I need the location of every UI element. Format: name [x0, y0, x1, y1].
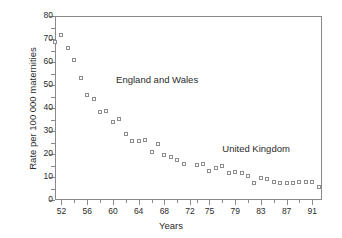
data-point-marker: [143, 138, 147, 142]
data-point-marker: [304, 180, 308, 184]
data-point-marker: [220, 164, 224, 168]
data-point-marker: [98, 110, 102, 114]
x-axis-tick: [164, 200, 165, 205]
x-axis-minor-tick: [197, 200, 198, 203]
x-axis-minor-tick: [152, 200, 153, 203]
x-axis-tick: [235, 200, 236, 205]
annotation-united-kingdom: United Kingdom: [222, 143, 290, 154]
y-axis-tick-label: 0: [48, 195, 53, 204]
y-axis-tick-label: 30: [44, 126, 53, 135]
x-axis-tick-label: 64: [129, 207, 149, 216]
plot-area: [55, 16, 322, 200]
x-axis-minor-tick: [222, 200, 223, 203]
x-axis-tick: [87, 200, 88, 205]
maternal-mortality-scatter-chart: Rate per 100 000 maternities 01020304050…: [0, 0, 342, 238]
y-axis-tick-label: 80: [44, 11, 53, 20]
x-axis-minor-tick: [299, 200, 300, 203]
data-point-marker: [297, 180, 301, 184]
data-point-marker: [150, 150, 154, 154]
data-point-marker: [278, 181, 282, 185]
x-axis-tick: [312, 200, 313, 205]
data-point-marker: [195, 163, 199, 167]
x-axis-minor-tick: [248, 200, 249, 203]
data-point-marker: [53, 40, 57, 44]
x-axis-tick-label: 83: [251, 207, 271, 216]
data-point-marker: [79, 76, 83, 80]
y-axis-title: Rate per 100 000 maternities: [27, 14, 38, 204]
x-axis-tick-label: 52: [51, 207, 71, 216]
x-axis-tick: [190, 200, 191, 205]
y-axis-minor-tick: [51, 120, 55, 121]
data-point-marker: [214, 166, 218, 170]
data-point-marker: [169, 155, 173, 159]
y-axis-tick-label: 50: [44, 80, 53, 89]
y-axis-tick-label: 20: [44, 149, 53, 158]
data-point-marker: [207, 169, 211, 173]
data-point-marker: [317, 185, 321, 189]
y-axis-minor-tick: [51, 51, 55, 52]
x-axis-tick-label: 79: [225, 207, 245, 216]
x-axis-minor-tick: [126, 200, 127, 203]
x-axis-tick: [61, 200, 62, 205]
data-point-marker: [246, 174, 250, 178]
annotation-england-and-wales: England and Wales: [116, 74, 198, 85]
y-axis-minor-tick: [51, 97, 55, 98]
data-point-marker: [182, 162, 186, 166]
x-axis-minor-tick: [74, 200, 75, 203]
x-axis-tick-label: 72: [180, 207, 200, 216]
y-axis-minor-tick: [51, 74, 55, 75]
data-point-marker: [201, 162, 205, 166]
x-axis-tick-label: 60: [103, 207, 123, 216]
x-axis-tick: [261, 200, 262, 205]
data-point-marker: [233, 170, 237, 174]
x-axis-tick-label: 56: [77, 207, 97, 216]
y-axis-minor-tick: [51, 143, 55, 144]
data-point-marker: [72, 58, 76, 62]
data-point-marker: [156, 142, 160, 146]
data-point-marker: [265, 177, 269, 181]
data-point-marker: [137, 139, 141, 143]
data-point-marker: [66, 46, 70, 50]
x-axis-tick: [287, 200, 288, 205]
data-point-marker: [240, 171, 244, 175]
y-axis-tick-label: 70: [44, 34, 53, 43]
y-axis-minor-tick: [51, 28, 55, 29]
y-axis-minor-tick: [51, 189, 55, 190]
data-point-marker: [259, 176, 263, 180]
x-axis-tick-label: 68: [154, 207, 174, 216]
x-axis-tick-label: 91: [302, 207, 322, 216]
data-point-marker: [310, 180, 314, 184]
data-point-marker: [104, 109, 108, 113]
x-axis-tick: [139, 200, 140, 205]
y-axis-tick-label: 60: [44, 57, 53, 66]
data-point-marker: [227, 171, 231, 175]
x-axis-tick-label: 87: [277, 207, 297, 216]
y-axis-tick-label: 40: [44, 103, 53, 112]
x-axis-title: Years: [0, 220, 342, 231]
data-point-marker: [285, 181, 289, 185]
x-axis-tick: [113, 200, 114, 205]
data-point-marker: [291, 181, 295, 185]
x-axis-minor-tick: [100, 200, 101, 203]
x-axis-tick: [209, 200, 210, 205]
x-axis-minor-tick: [274, 200, 275, 203]
data-point-marker: [117, 117, 121, 121]
y-axis-tick-label: 10: [44, 172, 53, 181]
y-axis-minor-tick: [51, 166, 55, 167]
data-point-marker: [92, 97, 96, 101]
x-axis-minor-tick: [177, 200, 178, 203]
data-point-marker: [124, 132, 128, 136]
data-point-marker: [252, 181, 256, 185]
x-axis-tick-label: 75: [199, 207, 219, 216]
data-point-marker: [85, 93, 89, 97]
data-point-marker: [272, 180, 276, 184]
data-point-marker: [59, 33, 63, 37]
data-point-marker: [162, 153, 166, 157]
data-point-marker: [130, 139, 134, 143]
data-point-marker: [111, 120, 115, 124]
data-point-marker: [175, 158, 179, 162]
